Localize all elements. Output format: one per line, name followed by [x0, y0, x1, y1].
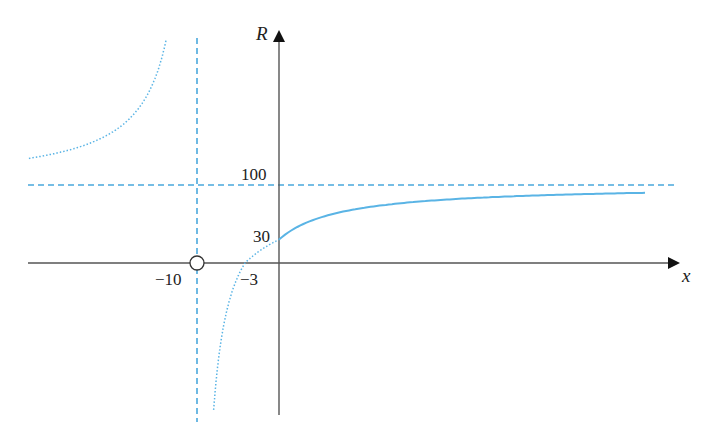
tick-label-30: 30: [253, 227, 270, 246]
y-axis-arrow-icon: [273, 30, 285, 42]
tick-label-100: 100: [241, 165, 267, 184]
open-point-marker: [190, 256, 204, 270]
curve-dotted-left-branch: [29, 40, 166, 158]
tick-label-neg3: −3: [240, 270, 258, 289]
y-axis-label: R: [255, 23, 268, 44]
curve-dotted-middle-branch: [214, 240, 279, 410]
x-axis-arrow-icon: [668, 257, 680, 269]
tick-label-neg10: −10: [155, 270, 182, 289]
x-axis-label: x: [681, 265, 691, 286]
curve-solid-branch: [279, 193, 645, 240]
rational-function-graph: R x 100 30 −3 −10: [0, 0, 719, 439]
